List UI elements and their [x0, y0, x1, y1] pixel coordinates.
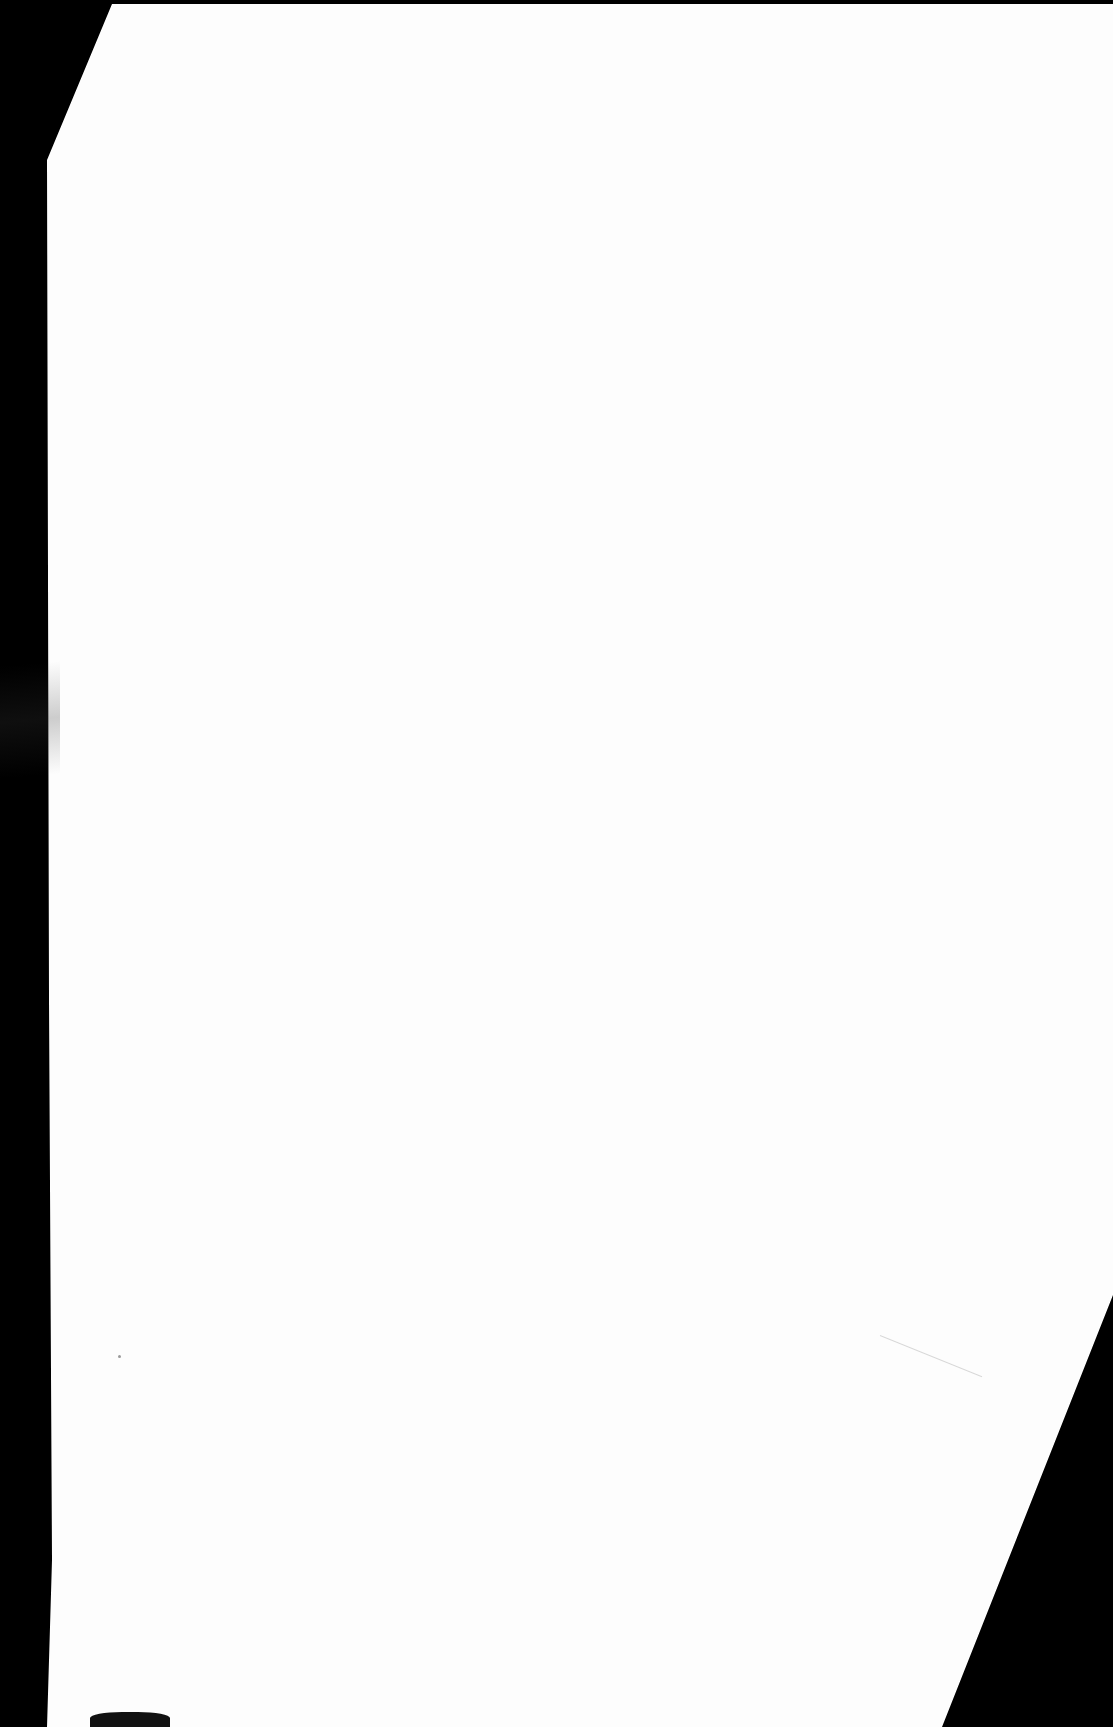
- scan-background: [0, 0, 1113, 1727]
- blank-page: [0, 0, 1113, 1727]
- page-fold-corner: [90, 1712, 170, 1727]
- dust-speck: [118, 1355, 121, 1358]
